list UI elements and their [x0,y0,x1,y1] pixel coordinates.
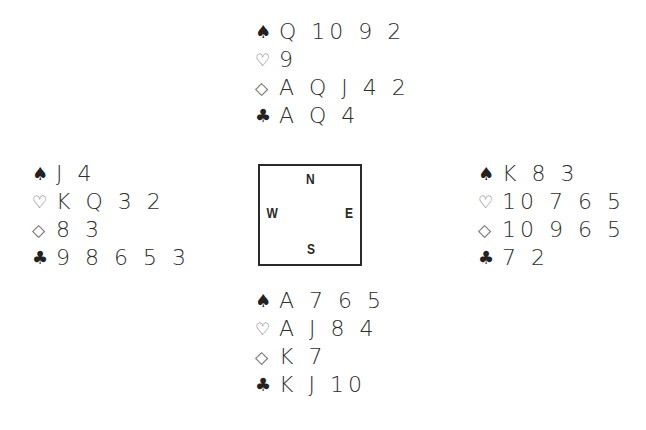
club-icon: ♣ [32,244,56,272]
east-spades-row: ♠ K 8 3 [478,160,625,188]
compass-east-label: E [345,204,353,221]
east-hearts-row: ♡ 10 7 6 5 [478,188,625,216]
north-clubs-cards: A Q 4 [279,102,359,130]
west-diamonds-row: ◇ 8 3 [32,216,190,244]
diamond-icon: ◇ [478,216,502,244]
east-spades-cards: K 8 3 [502,160,578,188]
north-diamonds-cards: A Q J 4 2 [279,74,410,102]
compass-west-label: W [266,204,277,221]
spade-icon: ♠ [255,287,279,315]
heart-icon: ♡ [255,315,279,343]
compass-south-label: S [307,240,315,257]
west-hand: ♠ J 4 ♡ K Q 3 2 ◇ 8 3 ♣ 9 8 6 5 3 [32,160,190,272]
compass-north-label: N [306,170,315,187]
east-diamonds-row: ◇ 10 9 6 5 [478,216,625,244]
heart-icon: ♡ [478,188,502,216]
north-spades-row: ♠ Q 10 9 2 [255,18,410,46]
east-clubs-cards: 7 2 [502,244,549,272]
west-hearts-row: ♡ K Q 3 2 [32,188,190,216]
west-hearts-cards: K Q 3 2 [56,188,165,216]
south-diamonds-row: ◇ K 7 [255,343,385,371]
north-spades-cards: Q 10 9 2 [279,18,405,46]
compass-box: N W E S [258,164,362,266]
east-diamonds-cards: 10 9 6 5 [502,216,625,244]
east-clubs-row: ♣ 7 2 [478,244,625,272]
north-diamonds-row: ◇ A Q J 4 2 [255,74,410,102]
west-clubs-cards: 9 8 6 5 3 [56,244,190,272]
north-hearts-row: ♡ 9 [255,46,410,74]
south-spades-row: ♠ A 7 6 5 [255,287,385,315]
spade-icon: ♠ [478,160,502,188]
spade-icon: ♠ [255,18,279,46]
west-diamonds-cards: 8 3 [56,216,103,244]
east-hand: ♠ K 8 3 ♡ 10 7 6 5 ◇ 10 9 6 5 ♣ 7 2 [478,160,625,272]
south-hearts-cards: A J 8 4 [279,315,378,343]
east-hearts-cards: 10 7 6 5 [502,188,625,216]
north-hand: ♠ Q 10 9 2 ♡ 9 ◇ A Q J 4 2 ♣ A Q 4 [255,18,410,130]
diamond-icon: ◇ [255,74,279,102]
heart-icon: ♡ [255,46,279,74]
west-spades-row: ♠ J 4 [32,160,190,188]
south-spades-cards: A 7 6 5 [279,287,385,315]
diamond-icon: ◇ [32,216,56,244]
spade-icon: ♠ [32,160,56,188]
west-clubs-row: ♣ 9 8 6 5 3 [32,244,190,272]
south-diamonds-cards: K 7 [279,343,326,371]
south-clubs-cards: K J 10 [279,371,366,399]
south-hand: ♠ A 7 6 5 ♡ A J 8 4 ◇ K 7 ♣ K J 10 [255,287,385,399]
west-spades-cards: J 4 [56,160,95,188]
club-icon: ♣ [478,244,502,272]
club-icon: ♣ [255,102,279,130]
south-hearts-row: ♡ A J 8 4 [255,315,385,343]
south-clubs-row: ♣ K J 10 [255,371,385,399]
diamond-icon: ◇ [255,343,279,371]
heart-icon: ♡ [32,188,56,216]
club-icon: ♣ [255,371,279,399]
north-clubs-row: ♣ A Q 4 [255,102,410,130]
north-hearts-cards: 9 [279,46,297,74]
